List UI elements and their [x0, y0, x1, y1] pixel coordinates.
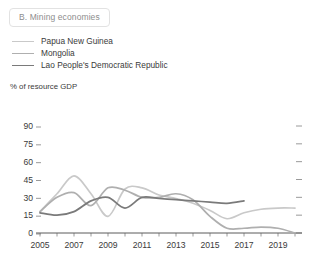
- data-series-group: [40, 176, 295, 233]
- right-axis-ticks: [296, 126, 302, 233]
- legend-label: Mongolia: [41, 48, 75, 59]
- legend-label: Lao People's Democratic Republic: [41, 60, 168, 71]
- y-axis-labels: 0153045607590: [23, 121, 33, 238]
- plot-area: 0153045607590 20052007200920112013201520…: [0, 90, 310, 257]
- x-axis-labels: 20052007200920112013201520172019: [30, 240, 287, 250]
- y-axis-tick-label: 75: [23, 139, 33, 149]
- y-axis-tick-label: 0: [28, 228, 33, 238]
- x-axis-tick-label: 2015: [200, 240, 219, 250]
- x-axis-tick-label: 2005: [30, 240, 49, 250]
- y-axis-tick-label: 30: [23, 193, 33, 203]
- legend-item-lao-pdr: Lao People's Democratic Republic: [12, 60, 168, 71]
- x-axis-tick-label: 2009: [98, 240, 117, 250]
- line-swatch-icon: [12, 65, 34, 66]
- legend-item-papua-new-guinea: Papua New Guinea: [12, 36, 168, 47]
- x-axis-ticks: [40, 233, 295, 237]
- x-axis-tick-label: 2007: [64, 240, 83, 250]
- series-line: [40, 176, 295, 219]
- legend-label: Papua New Guinea: [41, 36, 113, 47]
- chart-figure: B. Mining economies Papua New Guinea Mon…: [0, 0, 310, 257]
- legend-item-mongolia: Mongolia: [12, 48, 168, 59]
- y-axis-tick-label: 45: [23, 175, 33, 185]
- line-swatch-icon: [12, 41, 34, 42]
- x-axis-tick-label: 2013: [166, 240, 185, 250]
- chart-legend: Papua New Guinea Mongolia Lao People's D…: [12, 36, 168, 72]
- line-swatch-icon: [12, 53, 34, 54]
- x-axis-tick-label: 2011: [133, 240, 152, 250]
- y-axis-tick-label: 90: [23, 121, 33, 131]
- x-axis-tick-label: 2017: [234, 240, 253, 250]
- y-axis-ticks: [36, 127, 41, 234]
- x-axis-tick-label: 2019: [268, 240, 287, 250]
- chart-svg: 0153045607590 20052007200920112013201520…: [0, 90, 310, 257]
- y-axis-tick-label: 15: [23, 210, 33, 220]
- y-axis-tick-label: 60: [23, 157, 33, 167]
- panel-title: B. Mining economies: [9, 8, 110, 27]
